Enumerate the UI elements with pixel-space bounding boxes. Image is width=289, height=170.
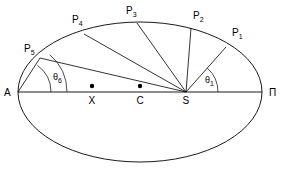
label-angle-theta6: θ6 xyxy=(53,72,62,84)
ray-S-to-P2 xyxy=(186,28,191,92)
label-orbit-point-p5: P5 xyxy=(24,43,35,56)
angle-label-group: θ1θ6 xyxy=(53,72,214,87)
label-p1-subscript: 1 xyxy=(239,33,243,40)
label-p2-subscript: 2 xyxy=(200,16,204,23)
label-apoapsis-A: A xyxy=(4,87,11,98)
label-theta6-subscript: 6 xyxy=(58,77,62,84)
label-orbit-point-p4: P4 xyxy=(72,14,83,27)
label-orbit-point-p3: P3 xyxy=(126,5,137,18)
dot-x xyxy=(90,84,94,88)
label-theta1-subscript: 1 xyxy=(210,80,214,87)
axis-point-dots xyxy=(90,84,142,88)
label-p3-subscript: 3 xyxy=(133,11,137,18)
angle-arc-theta6 xyxy=(37,65,51,92)
label-orbit-point-p1: P1 xyxy=(232,27,243,40)
label-axis-point-x: X xyxy=(89,95,96,106)
label-angle-theta1: θ1 xyxy=(205,75,214,87)
label-p5-subscript: 5 xyxy=(31,49,35,56)
label-axis-point-s: S xyxy=(183,95,190,106)
dot-c xyxy=(138,84,142,88)
diagram-canvas: A Π XCS P1P2P3P4P5 θ1θ6 xyxy=(0,0,289,170)
orbit-point-label-group: P1P2P3P4P5 xyxy=(24,5,243,56)
ray-S-to-P1 xyxy=(186,47,226,92)
label-p4-subscript: 4 xyxy=(79,20,83,27)
ellipse-orbit-diagram: A Π XCS P1P2P3P4P5 θ1θ6 xyxy=(0,0,289,170)
label-periapsis-pi: Π xyxy=(269,87,276,98)
ray-S-to-P3 xyxy=(137,23,186,92)
focus-ray-group xyxy=(40,23,226,92)
ray-S-to-P4 xyxy=(84,34,186,92)
label-axis-point-c: C xyxy=(137,95,144,106)
ray-S-to-P5 xyxy=(40,58,186,92)
axis-point-label-group: XCS xyxy=(89,95,190,106)
label-orbit-point-p2: P2 xyxy=(193,10,204,23)
